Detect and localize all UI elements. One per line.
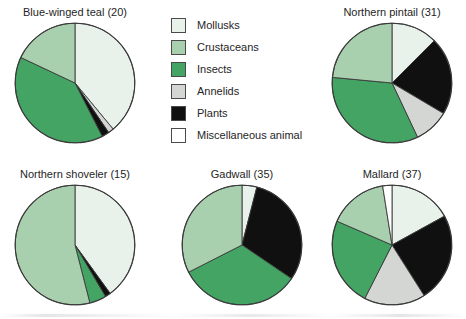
legend-item-label: Mollusks bbox=[197, 19, 240, 32]
legend-item-label: Miscellaneous animal bbox=[197, 129, 302, 142]
legend-swatch-icon bbox=[171, 106, 186, 121]
pie-graphic bbox=[14, 184, 136, 306]
pie-mallard: Mallard (37) bbox=[331, 168, 453, 306]
scan-edge-artifact bbox=[0, 314, 466, 317]
pie-title: Mallard (37) bbox=[331, 168, 453, 181]
legend-item: Mollusks bbox=[171, 14, 303, 36]
legend-item-label: Crustaceans bbox=[197, 41, 259, 54]
legend-swatch-icon bbox=[171, 18, 186, 33]
pie-graphic bbox=[331, 22, 453, 144]
legend-item-label: Annelids bbox=[197, 85, 239, 98]
pie-chart-figure: MollusksCrustaceansInsectsAnnelidsPlants… bbox=[0, 0, 466, 319]
pie-slice bbox=[332, 23, 392, 83]
pie-title: Northern pintail (31) bbox=[331, 6, 453, 19]
legend-item: Annelids bbox=[171, 80, 303, 102]
legend-swatch-icon bbox=[171, 128, 186, 143]
pie-graphic bbox=[181, 184, 303, 306]
legend-swatch-icon bbox=[171, 40, 186, 55]
pie-northern-shoveler: Northern shoveler (15) bbox=[14, 168, 136, 306]
pie-graphic bbox=[14, 22, 136, 144]
legend-swatch-icon bbox=[171, 84, 186, 99]
pie-northern-pintail: Northern pintail (31) bbox=[331, 6, 453, 144]
pie-blue-winged-teal: Blue-winged teal (20) bbox=[14, 6, 136, 144]
diet-category-legend: MollusksCrustaceansInsectsAnnelidsPlants… bbox=[171, 14, 303, 146]
legend-item-label: Insects bbox=[197, 63, 232, 76]
legend-item: Plants bbox=[171, 102, 303, 124]
legend-item-label: Plants bbox=[197, 107, 228, 120]
legend-item: Crustaceans bbox=[171, 36, 303, 58]
legend-swatch-icon bbox=[171, 62, 186, 77]
pie-gadwall: Gadwall (35) bbox=[181, 168, 303, 306]
pie-graphic bbox=[331, 184, 453, 306]
pie-title: Gadwall (35) bbox=[181, 168, 303, 181]
legend-item: Insects bbox=[171, 58, 303, 80]
legend-item: Miscellaneous animal bbox=[171, 124, 303, 146]
pie-title: Northern shoveler (15) bbox=[14, 168, 136, 181]
pie-title: Blue-winged teal (20) bbox=[14, 6, 136, 19]
